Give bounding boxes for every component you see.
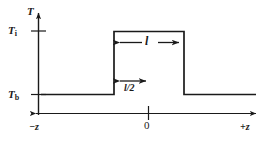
tb-base: T (8, 88, 15, 100)
vertical-axis-label: T (27, 6, 34, 17)
temperature-profile-curve (41, 32, 256, 95)
temperature-profile-figure: T Ti Tb l l/2 0 −z +z (0, 0, 273, 143)
ti-base: T (8, 24, 15, 36)
half-width-label: l/2 (124, 83, 135, 93)
origin-label: 0 (144, 120, 150, 131)
negative-z-label: −z (29, 122, 39, 132)
tb-tick-label: Tb (8, 89, 19, 100)
full-width-label: l (145, 35, 148, 47)
ti-tick-label: Ti (8, 25, 17, 36)
ti-subscript: i (15, 29, 17, 38)
tb-subscript: b (15, 93, 19, 102)
positive-z-label: +z (240, 122, 250, 132)
plot-canvas (0, 0, 273, 143)
